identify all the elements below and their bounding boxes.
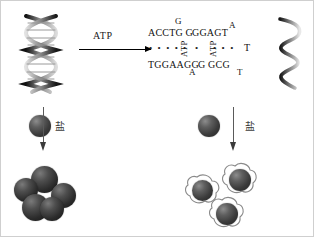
salt-label-right: 盐 <box>245 118 255 133</box>
sequence-dots-left: • • • • <box>149 43 180 53</box>
gold-nanoparticle-left <box>29 115 51 137</box>
sequence-top-strand: ACCTG G <box>148 27 193 38</box>
gold-nanoparticle-right <box>198 115 220 137</box>
reaction-arrow-horizontal <box>79 49 151 50</box>
coated-nanoparticle-3 <box>206 193 248 233</box>
sequence-dot-mid-2: • <box>195 43 200 53</box>
sequence-dot-mid: • <box>183 43 188 53</box>
sequence-sub-a: A <box>189 67 196 77</box>
sequence-right-t: T <box>244 42 250 53</box>
dna-double-helix-icon <box>18 13 64 95</box>
aggregated-nanoparticles <box>13 166 79 226</box>
sequence-sub-t: T <box>237 67 243 77</box>
sequence-top-strand-2: GGAGT <box>192 27 228 38</box>
figure-canvas: ATP G ACCTG G GGAGT A • • • • ATP • • AT… <box>0 0 314 237</box>
sequence-dots-right: • • • <box>213 43 235 53</box>
salt-arrow-right <box>233 107 234 143</box>
salt-label-left: 盐 <box>55 118 65 133</box>
atp-arrow-label: ATP <box>93 30 113 41</box>
sequence-bottom-strand-2: G GCG <box>198 59 230 70</box>
sequence-sup-g: G <box>175 16 182 26</box>
sequence-sup-a: A <box>229 20 236 30</box>
salt-arrow-left <box>43 107 44 143</box>
dna-single-strand-icon <box>273 15 307 91</box>
